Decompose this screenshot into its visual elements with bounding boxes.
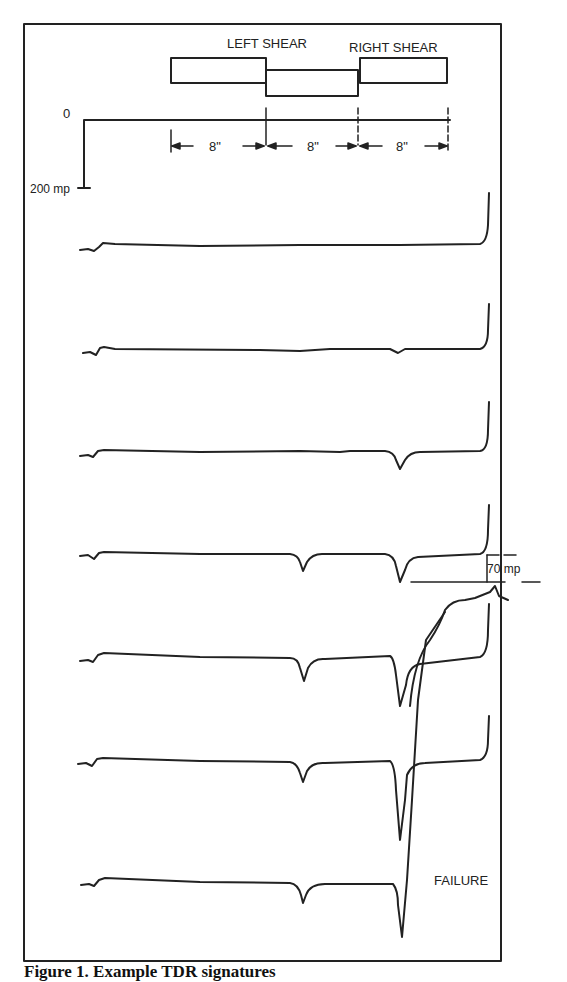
zero-label: 0	[63, 106, 70, 121]
trace-6	[78, 716, 489, 840]
trace-7-failure	[81, 612, 445, 937]
trace-1	[80, 193, 489, 251]
trace-3	[80, 402, 489, 469]
scale-200-label: 200 mp	[30, 182, 70, 196]
right-block	[360, 58, 447, 83]
scale-70mp	[411, 555, 540, 582]
dim-label-1: 8"	[209, 139, 221, 154]
center-block	[266, 70, 358, 96]
figure-frame	[24, 24, 501, 961]
trace-4	[80, 505, 489, 582]
dim-label-3: 8"	[396, 139, 408, 154]
failure-label: FAILURE	[434, 873, 489, 888]
right-shear-label: RIGHT SHEAR	[349, 40, 438, 55]
left-block	[171, 58, 266, 83]
trace-2	[83, 304, 489, 355]
dim-label-2: 8"	[307, 139, 319, 154]
trace-5	[80, 604, 489, 706]
scale-70-label: 70 mp	[487, 562, 521, 576]
left-shear-label: LEFT SHEAR	[227, 36, 307, 51]
zero-axis	[84, 120, 450, 188]
figure-caption: Figure 1. Example TDR signatures	[24, 962, 276, 982]
